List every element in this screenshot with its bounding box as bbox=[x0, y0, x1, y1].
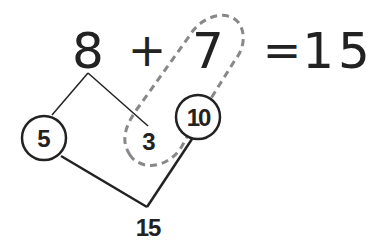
part-5-label: 5 bbox=[37, 125, 50, 152]
split-line-left bbox=[52, 73, 88, 115]
equals-sign: = bbox=[263, 23, 302, 77]
make-ten-diagram: 8 + 7 = 15 5 3 10 15 bbox=[0, 0, 379, 250]
join-line-left bbox=[61, 156, 147, 207]
make-ten-label: 10 bbox=[187, 104, 211, 131]
addend-8: 8 bbox=[72, 22, 104, 80]
part-3-label: 3 bbox=[142, 128, 155, 155]
split-line-right bbox=[88, 73, 148, 126]
sum-15: 15 bbox=[302, 22, 374, 80]
result-15-label: 15 bbox=[136, 214, 161, 241]
addend-7: 7 bbox=[192, 22, 224, 80]
plus-sign: + bbox=[128, 23, 167, 77]
